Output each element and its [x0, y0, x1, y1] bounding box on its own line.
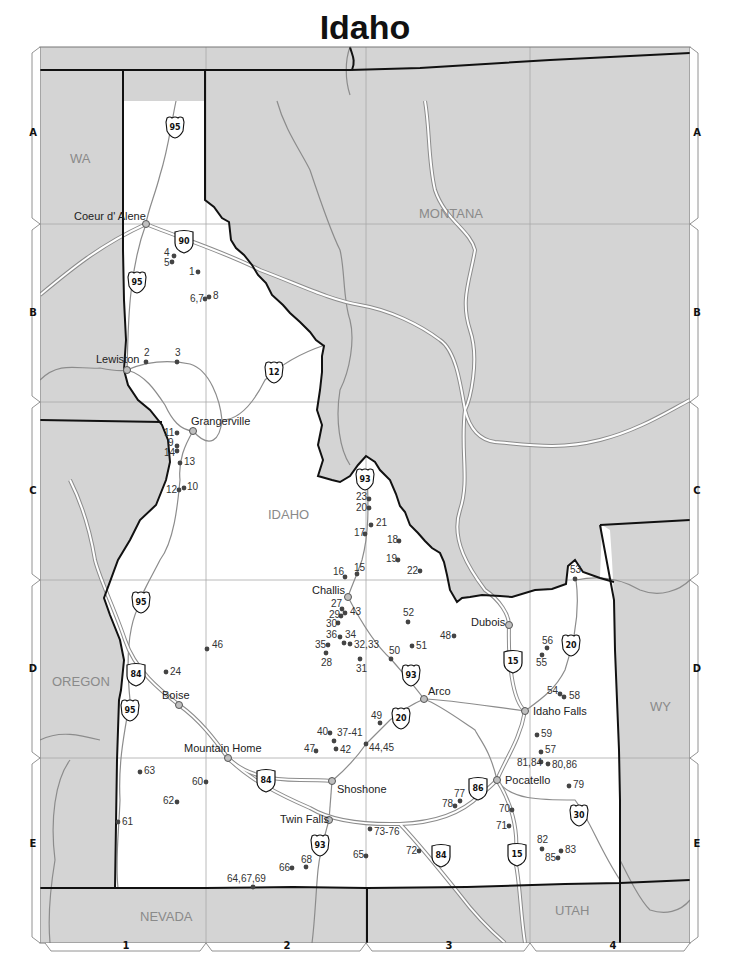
site-label: 46 — [212, 639, 224, 650]
shield-number: 95 — [124, 706, 136, 715]
city-label: Shoshone — [337, 783, 387, 795]
state-label-utah: UTAH — [555, 903, 589, 918]
site-dot-icon — [540, 847, 545, 852]
site-label: 11 — [164, 427, 175, 438]
site-label: 73-76 — [374, 826, 400, 837]
site-label: 64,67,69 — [227, 873, 266, 884]
site-label: 58 — [569, 690, 581, 701]
grid-row-label: B — [693, 307, 701, 318]
site-dot-icon — [358, 657, 363, 662]
city-marker-icon — [225, 755, 232, 762]
grid-row-tab-e-left: E — [30, 758, 40, 943]
site-dot-icon — [207, 295, 212, 300]
state-label-montana: MONTANA — [419, 206, 483, 221]
site-label: 23 — [356, 491, 368, 502]
grid-row-tab-c-left: C — [29, 402, 40, 580]
site-dot-icon — [343, 611, 348, 616]
site-dot-icon — [332, 739, 337, 744]
site-dot-icon — [304, 865, 309, 870]
shield-number: 20 — [395, 714, 407, 723]
city-label: Challis — [312, 584, 346, 596]
grid-row-tab-b-left: B — [29, 224, 40, 402]
site-dot-icon — [204, 780, 209, 785]
site-dot-icon — [452, 634, 457, 639]
site-dot-icon — [116, 820, 121, 825]
site-label: 43 — [350, 606, 362, 617]
city-marker-icon — [329, 778, 336, 785]
site-label: 28 — [321, 657, 333, 668]
site-dot-icon — [545, 646, 550, 651]
shield-number: 95 — [169, 123, 181, 132]
interstate-shield-icon-86: 86 — [469, 778, 487, 801]
site-dot-icon — [334, 747, 339, 752]
site-dot-icon — [546, 762, 551, 767]
interstate-shield-icon-84: 84 — [127, 664, 145, 687]
grid-column-label: 2 — [284, 940, 291, 951]
city-marker-icon — [506, 622, 513, 629]
grid-column-label: 1 — [123, 940, 130, 951]
site-label: 55 — [536, 657, 548, 668]
grid-row-tab-d-left: D — [29, 580, 40, 758]
shield-number: 93 — [359, 475, 370, 484]
site-dot-icon — [170, 260, 175, 265]
site-label: 10 — [187, 481, 199, 492]
site-label: 20 — [356, 502, 368, 513]
site-dot-icon — [556, 856, 561, 861]
site-dot-icon — [562, 695, 567, 700]
site-label: 54 — [547, 685, 559, 696]
state-label-nevada: NEVADA — [140, 909, 193, 924]
site-dot-icon — [558, 692, 563, 697]
site-dot-icon — [418, 569, 423, 574]
grid-row-label: D — [693, 663, 701, 674]
site-dot-icon — [175, 444, 180, 449]
site-dot-icon — [417, 849, 422, 854]
state-label-wy: WY — [650, 699, 671, 714]
grid-column-label: 3 — [446, 940, 453, 951]
site-label: 53 — [570, 564, 582, 575]
city-marker-icon — [176, 702, 183, 709]
city-label: Arco — [428, 685, 451, 697]
site-label: 51 — [416, 640, 428, 651]
site-label: 78 — [442, 798, 454, 809]
site-label: 62 — [163, 795, 175, 806]
site-dot-icon — [164, 670, 169, 675]
state-label-wa: WA — [70, 151, 91, 166]
site-dot-icon — [205, 647, 210, 652]
grid-row-label: A — [693, 127, 701, 138]
site-dot-icon — [458, 799, 463, 804]
shield-number: 15 — [511, 850, 523, 859]
site-label: 56 — [542, 635, 554, 646]
site-label: 6,7 — [190, 293, 204, 304]
site-dot-icon — [378, 721, 383, 726]
site-label: 49 — [371, 710, 383, 721]
site-label: 71 — [496, 820, 508, 831]
interstate-shield-icon-84: 84 — [257, 770, 275, 793]
shield-number: 95 — [135, 598, 147, 607]
site-label: 60 — [192, 776, 204, 787]
grid-row-label: E — [694, 838, 701, 849]
site-label: 42 — [340, 744, 352, 755]
site-label: 14 — [164, 447, 176, 458]
shield-number: 84 — [130, 670, 142, 679]
site-dot-icon — [535, 733, 540, 738]
site-label: 8 — [213, 290, 219, 301]
city-label: Grangerville — [191, 415, 250, 427]
state-label-idaho: IDAHO — [268, 507, 309, 522]
grid-row-label: A — [29, 127, 37, 138]
site-label: 22 — [407, 565, 419, 576]
grid-row-tab-d-right: D — [690, 580, 701, 758]
site-label: 30 — [326, 618, 338, 629]
interstate-shield-icon-84: 84 — [432, 845, 450, 868]
site-label: 37-41 — [337, 727, 363, 738]
city-marker-icon — [522, 708, 529, 715]
grid-row-tab-a-right: A — [690, 47, 701, 224]
grid-column-label: 4 — [610, 940, 617, 951]
site-dot-icon — [559, 849, 564, 854]
shield-number: 15 — [507, 657, 519, 666]
interstate-shield-icon-15: 15 — [504, 651, 522, 674]
city-marker-icon — [124, 367, 131, 374]
site-label: 66 — [279, 862, 291, 873]
grid-row-label: B — [29, 307, 37, 318]
site-label: 81,84 — [517, 757, 542, 768]
site-81,84: 81,84 — [517, 757, 543, 768]
